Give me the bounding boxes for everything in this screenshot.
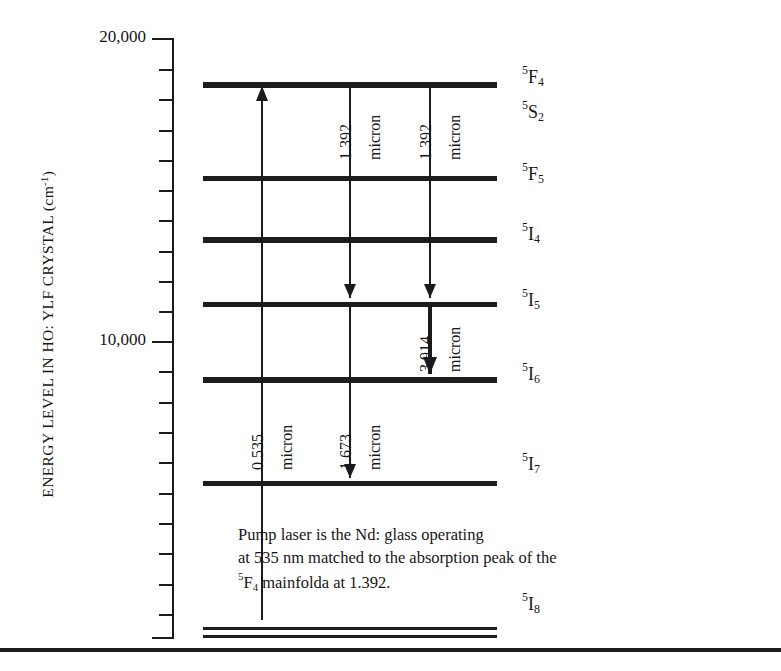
state-label-term: F <box>528 67 538 87</box>
transition-unit-emission-1392-b: micron <box>447 115 463 160</box>
transition-wavelength-emission-1392-a: 1.392 <box>338 124 354 160</box>
y-axis-tick <box>159 130 174 132</box>
state-label-5I8: 5I8 <box>522 592 540 616</box>
y-axis-title-exponent: -1 <box>39 176 50 186</box>
y-axis-tick <box>152 341 174 343</box>
transition-wavelength-pump-0535: 0.535 <box>250 434 266 470</box>
y-axis-tick <box>152 38 174 40</box>
energy-level-bar <box>203 481 497 486</box>
energy-level-diagram: ENERGY LEVEL IN HO: YLF CRYSTAL (cm-1) 2… <box>0 0 781 671</box>
transition-unit-pump-0535: micron <box>279 425 295 470</box>
state-label-5S2: 5S2 <box>522 100 544 124</box>
y-axis-spine <box>172 38 174 638</box>
state-label-subscript: 4 <box>538 75 544 89</box>
y-axis-tick <box>159 553 174 555</box>
state-label-subscript: 2 <box>538 110 544 124</box>
state-label-5F4: 5F4 <box>522 65 544 89</box>
y-axis-tick <box>159 69 174 71</box>
y-axis-tick <box>159 614 174 616</box>
y-axis-tick-label: 20,000 <box>0 27 146 47</box>
arrowhead-emission-1392-b <box>424 284 436 298</box>
y-axis-tick-label-text: 20,000 <box>0 27 146 47</box>
y-axis-tick <box>159 99 174 101</box>
state-label-5I4: 5I4 <box>522 222 540 246</box>
y-axis-title-close: ) <box>39 171 56 177</box>
y-axis-tick <box>159 220 174 222</box>
y-axis-tick <box>159 251 174 253</box>
y-axis-tick <box>159 584 174 586</box>
y-axis-tick <box>159 432 174 434</box>
transition-unit-emission-1392-a: micron <box>367 115 383 160</box>
arrowhead-emission-1392-a <box>344 284 356 298</box>
y-axis-tick <box>159 371 174 373</box>
y-axis-tick <box>159 493 174 495</box>
state-label-5I6: 5I6 <box>522 362 540 386</box>
y-axis-tick <box>159 462 174 464</box>
y-axis-tick <box>152 637 174 639</box>
state-label-5I5: 5I5 <box>522 288 540 312</box>
y-axis-tick-label: 10,000 <box>0 330 146 350</box>
energy-level-bar <box>203 635 497 638</box>
caption-line-2: at 535 nm matched to the absorption peak… <box>238 547 568 570</box>
state-label-term: F <box>528 164 538 184</box>
state-label-subscript: 8 <box>534 602 540 616</box>
y-axis-tick-label-text: 10,000 <box>0 330 146 350</box>
transition-line-emission-1392-a <box>349 85 351 298</box>
arrowhead-pump-0535 <box>256 86 268 101</box>
state-label-5F5: 5F5 <box>522 162 544 186</box>
y-axis-tick <box>159 190 174 192</box>
caption-line-3: 5F4 mainfolda at 1.392. <box>238 569 568 595</box>
caption-line-1: Pump laser is the Nd: glass operating <box>238 524 568 547</box>
y-axis-tick <box>159 402 174 404</box>
state-label-5I7: 5I7 <box>522 452 540 476</box>
y-axis-tick <box>159 311 174 313</box>
caption-line-3-rest: mainfolda at 1.392. <box>258 573 390 592</box>
state-label-term: S <box>528 102 538 122</box>
state-label-subscript: 5 <box>534 298 540 312</box>
energy-level-bar <box>203 627 497 630</box>
caption-line-3-term: F <box>243 573 252 592</box>
y-axis-tick <box>159 160 174 162</box>
pump-laser-caption: Pump laser is the Nd: glass operating at… <box>238 524 568 595</box>
state-label-subscript: 6 <box>534 372 540 386</box>
transition-unit-emission-3914: micron <box>447 327 463 372</box>
page-bottom-rule <box>0 648 781 652</box>
transition-unit-emission-1673: micron <box>367 425 383 470</box>
y-axis-tick <box>159 523 174 525</box>
y-axis-tick <box>159 281 174 283</box>
transition-wavelength-emission-1673: 1.673 <box>338 434 354 470</box>
state-label-subscript: 5 <box>538 172 544 186</box>
state-label-subscript: 4 <box>534 232 540 246</box>
transition-wavelength-emission-1392-b: 1.392 <box>418 124 434 160</box>
transition-wavelength-emission-3914: 3.914 <box>418 336 434 372</box>
transition-line-emission-1392-b <box>429 85 431 298</box>
state-label-subscript: 7 <box>534 462 540 476</box>
